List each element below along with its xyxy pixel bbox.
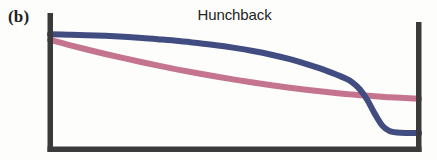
y-axis-spine <box>48 13 54 152</box>
y-axis-spine-right <box>416 22 422 152</box>
figure-panel: (b) Hunchback <box>0 0 437 160</box>
plot-area <box>0 0 437 160</box>
series-line-hunchback-blue <box>50 34 419 133</box>
curve-layer <box>50 34 419 133</box>
x-axis-spine <box>48 147 422 153</box>
